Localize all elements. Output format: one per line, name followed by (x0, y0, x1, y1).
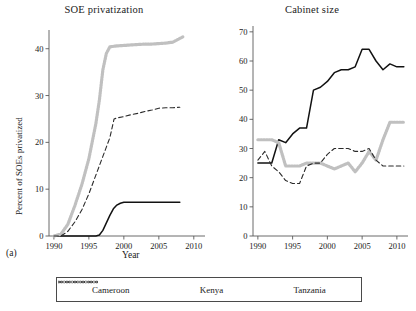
panel-b-plot: 01020304050607019901995200020052010 (208, 0, 416, 265)
legend-item-tanzania: Tanzania (294, 285, 326, 295)
svg-text:30: 30 (239, 144, 248, 154)
svg-text:2005: 2005 (354, 241, 371, 251)
svg-text:2010: 2010 (388, 241, 405, 251)
svg-text:1990: 1990 (249, 241, 266, 251)
svg-text:10: 10 (239, 202, 248, 212)
chart-legend: Cameroon Kenya Tanzania (56, 277, 362, 302)
legend-item-cameroon: Cameroon (92, 285, 130, 295)
svg-text:0: 0 (243, 231, 247, 241)
line-dashed-icon (57, 278, 99, 286)
panel-a-tag: (a) (6, 248, 17, 258)
svg-text:1995: 1995 (80, 241, 97, 251)
svg-text:60: 60 (239, 56, 248, 66)
svg-text:20: 20 (35, 137, 44, 147)
svg-text:1995: 1995 (284, 241, 301, 251)
chart-panel-cabinet-size: Cabinet size Cabinet size 01020304050607… (208, 0, 416, 265)
series-line-kenya (54, 37, 183, 236)
svg-text:40: 40 (239, 114, 248, 124)
series-line-kenya (258, 122, 404, 172)
legend-label-kenya: Kenya (200, 285, 224, 295)
svg-text:2010: 2010 (185, 241, 202, 251)
svg-text:50: 50 (239, 85, 248, 95)
svg-text:70: 70 (239, 27, 248, 37)
figure-container: SOE privatization Percent of SOEs privat… (0, 0, 416, 311)
panel-a-plot: 01020304019901995200020052010 (0, 0, 208, 265)
chart-panel-soe-privatization: SOE privatization Percent of SOEs privat… (0, 0, 208, 265)
panel-a-x-axis-label: Year (122, 250, 140, 260)
svg-text:2005: 2005 (150, 241, 167, 251)
svg-text:20: 20 (239, 173, 248, 183)
svg-text:1990: 1990 (45, 241, 62, 251)
svg-text:2000: 2000 (319, 241, 336, 251)
legend-label-cameroon: Cameroon (92, 285, 130, 295)
svg-text:0: 0 (39, 231, 43, 241)
svg-text:10: 10 (35, 184, 44, 194)
legend-label-tanzania: Tanzania (294, 285, 326, 295)
svg-text:30: 30 (35, 91, 44, 101)
series-line-tanzania (54, 107, 180, 236)
svg-text:40: 40 (35, 44, 44, 54)
legend-item-kenya: Kenya (200, 285, 224, 295)
